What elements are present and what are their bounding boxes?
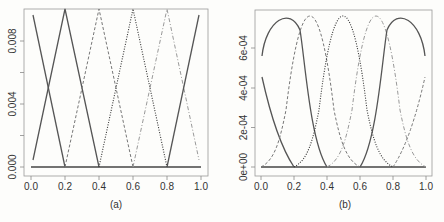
series-a-2 — [33, 9, 99, 167]
x-axis-b — [261, 176, 426, 180]
x-tick-b-5: 1.0 — [419, 181, 433, 192]
series-a-4 — [99, 9, 167, 167]
series-b-7 — [393, 77, 425, 167]
y-tick-b-3: 6e-04 — [238, 35, 249, 61]
x-tick-b-1: 0.2 — [287, 181, 301, 192]
series-a-6 — [167, 15, 199, 167]
plot-frame-b — [255, 10, 432, 176]
panel-a: 0.000 0.004 0.008 0.0 0.2 0.4 0.6 0.8 1.… — [7, 9, 208, 210]
caption-a: (a) — [110, 199, 122, 210]
y-axis-b — [251, 48, 255, 167]
y-tick-a-2: 0.008 — [7, 28, 18, 53]
x-tick-b-0: 0.0 — [254, 181, 268, 192]
x-tick-a-3: 0.6 — [126, 181, 140, 192]
x-tick-b-3: 0.6 — [353, 181, 367, 192]
series-b-2 — [262, 18, 327, 167]
series-a-5 — [133, 9, 199, 167]
y-tick-a-0: 0.000 — [7, 154, 18, 179]
y-axis-a — [20, 41, 24, 167]
x-axis-a — [31, 176, 201, 180]
y-tick-b-0: 0e+00 — [238, 153, 249, 182]
x-tick-a-5: 1.0 — [194, 181, 208, 192]
x-tick-b-2: 0.4 — [320, 181, 334, 192]
panel-b: 0e+00 2e-04 4e-04 6e-04 0.0 0.2 0.4 0.6 … — [238, 10, 433, 210]
plot-frame-a — [24, 9, 208, 176]
x-tick-a-1: 0.2 — [58, 181, 72, 192]
series-b-6 — [360, 18, 425, 167]
x-tick-a-2: 0.4 — [92, 181, 106, 192]
x-tick-a-0: 0.0 — [24, 181, 38, 192]
y-tick-b-2: 4e-04 — [238, 75, 249, 101]
y-tick-a-1: 0.004 — [7, 91, 18, 116]
series-a-3 — [65, 9, 133, 167]
series-b-5 — [327, 16, 426, 167]
series-b-3 — [261, 16, 360, 167]
figure: 0.000 0.004 0.008 0.0 0.2 0.4 0.6 0.8 1.… — [0, 0, 444, 222]
series-a-1 — [33, 15, 65, 167]
caption-b: (b) — [339, 199, 351, 210]
x-tick-a-4: 0.8 — [160, 181, 174, 192]
series-b-1 — [262, 77, 294, 167]
x-tick-b-4: 0.8 — [386, 181, 400, 192]
y-tick-b-1: 2e-04 — [238, 114, 249, 140]
